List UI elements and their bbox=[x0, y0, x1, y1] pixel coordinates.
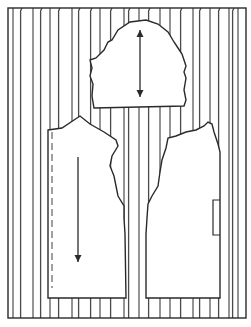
pattern-layout-diagram bbox=[0, 0, 251, 327]
sleeve-piece bbox=[90, 20, 186, 108]
pile-hatch bbox=[21, 8, 22, 320]
front-piece bbox=[48, 116, 126, 298]
diagram-canvas bbox=[0, 0, 251, 327]
pile-hatch bbox=[41, 8, 42, 320]
pile-hatch bbox=[233, 8, 234, 320]
back-piece bbox=[146, 122, 220, 298]
